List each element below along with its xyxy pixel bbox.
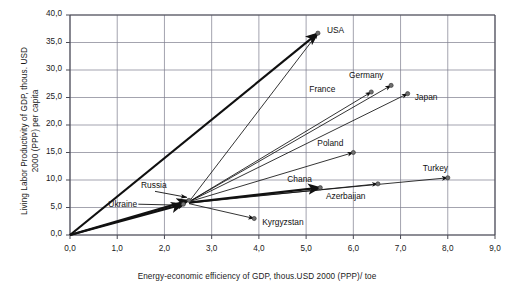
data-point-marker xyxy=(252,216,256,220)
data-point-label: Kyrgyzstan xyxy=(262,217,303,227)
data-point-marker xyxy=(369,90,373,94)
data-point-label: Azerbaijan xyxy=(326,191,366,201)
vector-from-cluster xyxy=(189,85,391,201)
data-point-marker xyxy=(316,31,320,35)
data-point-label: Russia xyxy=(141,180,167,190)
data-point-marker xyxy=(351,150,355,154)
label-leader-line xyxy=(155,191,187,197)
data-point-marker xyxy=(376,182,380,186)
data-point-label: Ukraine xyxy=(108,199,137,209)
data-point-label: Japan xyxy=(415,92,438,102)
vector-from-cluster xyxy=(189,92,371,202)
data-point-label: Poland xyxy=(317,138,343,148)
data-point-label: USA xyxy=(327,25,344,35)
vector-from-cluster xyxy=(189,204,254,219)
plot-area xyxy=(0,0,514,295)
data-point-marker xyxy=(406,92,410,96)
data-point-label: Germany xyxy=(349,70,383,80)
data-point-marker xyxy=(318,186,322,190)
data-point-label: Chana xyxy=(287,174,312,184)
data-point-marker xyxy=(181,202,185,206)
data-point-marker xyxy=(446,176,450,180)
data-point-marker xyxy=(187,198,191,202)
chart-container: Living Labor Productivity of GDP, thous.… xyxy=(0,0,514,295)
data-point-label: Turkey xyxy=(423,163,448,173)
vector-from-cluster xyxy=(189,94,408,202)
data-point-marker xyxy=(389,83,393,87)
data-point-label: France xyxy=(309,84,335,94)
